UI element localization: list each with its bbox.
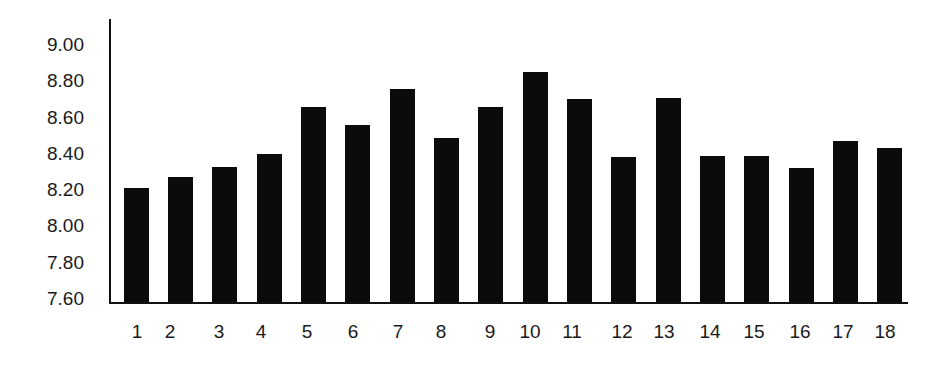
bar-1 — [124, 188, 149, 302]
y-tick-label: 8.40 — [24, 144, 84, 164]
x-tick-label: 4 — [241, 322, 281, 342]
bar-18 — [877, 148, 902, 302]
y-tick-label: 8.60 — [24, 108, 84, 128]
y-axis-line — [109, 19, 111, 304]
bar-13 — [656, 98, 681, 302]
bar-3 — [212, 167, 237, 302]
y-tick-label: 9.00 — [24, 35, 84, 55]
x-tick-label: 10 — [510, 322, 550, 342]
bar-5 — [301, 107, 326, 302]
y-tick-label: 8.80 — [24, 71, 84, 91]
bar-17 — [833, 141, 858, 302]
bar-7 — [390, 89, 415, 302]
x-tick-label: 12 — [602, 322, 642, 342]
x-tick-label: 13 — [644, 322, 684, 342]
bar-16 — [789, 168, 814, 302]
bar-14 — [700, 156, 725, 302]
x-tick-label: 17 — [823, 322, 863, 342]
x-tick-label: 6 — [333, 322, 373, 342]
x-tick-label: 2 — [150, 322, 190, 342]
x-tick-label: 5 — [287, 322, 327, 342]
y-tick-label: 7.80 — [24, 253, 84, 273]
bar-6 — [345, 125, 370, 302]
y-tick-label: 8.00 — [24, 216, 84, 236]
y-tick-label: 7.60 — [24, 289, 84, 309]
bar-2 — [168, 177, 193, 302]
bar-9 — [478, 107, 503, 302]
x-tick-label: 8 — [421, 322, 461, 342]
x-tick-label: 18 — [865, 322, 905, 342]
bar-12 — [611, 157, 636, 302]
bar-10 — [523, 72, 548, 302]
y-tick-label: 8.20 — [24, 180, 84, 200]
x-tick-label: 14 — [690, 322, 730, 342]
x-tick-label: 7 — [378, 322, 418, 342]
bar-15 — [744, 156, 769, 302]
x-tick-label: 11 — [552, 322, 592, 342]
x-tick-label: 16 — [780, 322, 820, 342]
bar-8 — [434, 138, 459, 302]
x-tick-label: 15 — [734, 322, 774, 342]
x-tick-label: 9 — [470, 322, 510, 342]
bar-4 — [257, 154, 282, 302]
bar-chart: 9.008.808.608.408.208.007.807.60 1234567… — [0, 0, 950, 368]
x-axis-line — [109, 302, 908, 304]
x-tick-label: 3 — [199, 322, 239, 342]
bar-11 — [567, 99, 592, 302]
